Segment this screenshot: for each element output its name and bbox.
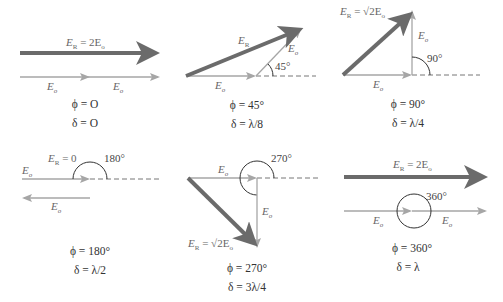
phase-difference: ϕ = O <box>72 98 99 110</box>
component-label-1: Eo <box>47 80 57 95</box>
component-label-1: Eo <box>373 78 383 93</box>
resultant-label: ER = 2Eo <box>66 36 105 51</box>
component-label-1: Eo <box>218 163 228 178</box>
phase-difference: ϕ = 180° <box>70 245 110 257</box>
resultant-label: ER = √2Eo <box>340 5 385 20</box>
resultant-arrow <box>343 17 407 75</box>
component-label-2: Eo <box>418 29 428 44</box>
panel-phi-270 <box>188 161 318 246</box>
path-difference: δ = λ/8 <box>231 118 263 130</box>
component-label-1: Eo <box>373 214 383 229</box>
panel-phi-360 <box>344 177 485 228</box>
component-label-2: Eo <box>442 214 452 229</box>
angle-label: 360° <box>426 190 447 202</box>
component-label-2: Eo <box>113 80 123 95</box>
resultant-label: ER <box>238 34 249 49</box>
panel-phi-180 <box>22 162 161 198</box>
phase-difference: ϕ = 270° <box>227 262 267 274</box>
path-difference: δ = 3λ/4 <box>228 281 266 293</box>
path-difference: δ = λ <box>396 261 419 273</box>
angle-label: 90° <box>427 52 442 64</box>
component-label-2: Eo <box>262 205 272 220</box>
angle-label: 180° <box>104 152 125 164</box>
resultant-label: ER = √2Eo <box>188 237 233 252</box>
component-label-1: Eo <box>22 164 32 179</box>
phase-difference: ϕ = 360° <box>392 242 432 254</box>
component-label-2: Eo <box>51 200 61 215</box>
component-label-2: Eo <box>288 42 298 57</box>
path-difference: δ = O <box>72 117 98 129</box>
angle-arc <box>268 64 273 76</box>
angle-label: 45° <box>275 60 290 72</box>
angle-label: 270° <box>271 152 292 164</box>
resultant-label: ER = 2Eo <box>393 158 432 173</box>
panel-phi-0 <box>20 53 158 77</box>
phase-difference: ϕ = 45° <box>230 99 264 111</box>
phase-difference: ϕ = 90° <box>391 98 425 110</box>
resultant-label: ER = 0 <box>48 152 77 167</box>
path-difference: δ = λ/2 <box>74 264 106 276</box>
angle-arc <box>73 162 107 179</box>
component-label-1: Eo <box>215 79 225 94</box>
panel-phi-90 <box>343 12 480 75</box>
path-difference: δ = λ/4 <box>392 117 424 129</box>
